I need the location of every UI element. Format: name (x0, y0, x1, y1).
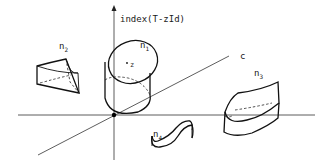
vertical-axis-label: index(T-zId) (120, 14, 185, 24)
vertical-axis-arrow-icon (112, 5, 117, 11)
diagram-canvas: index(T-zId) c n1 z n2 n3 (0, 0, 335, 168)
label-n1: n1 (140, 40, 149, 52)
point-z-label: z (130, 61, 134, 69)
label-n2: n2 (59, 41, 68, 53)
origin-point (112, 113, 116, 117)
object-n1-cylinder (102, 34, 163, 114)
diagram-svg: index(T-zId) c n1 z n2 n3 (0, 0, 335, 168)
object-n2-wedge (37, 59, 79, 93)
label-n3: n3 (254, 68, 263, 80)
label-n4: n4 (153, 129, 162, 141)
diagonal-axis-label: c (240, 51, 245, 61)
object-n3-slab (224, 82, 279, 135)
diagonal-axis (38, 56, 229, 155)
